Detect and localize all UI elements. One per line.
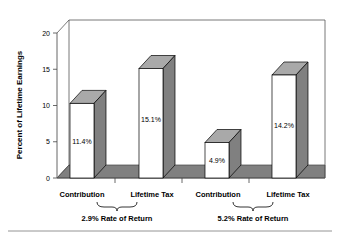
bar-group-3: 4.9% <box>205 130 241 179</box>
bar-group-4: 14.2% <box>272 62 308 178</box>
y-tick-label-0: 0 <box>46 175 50 182</box>
bar-4-value-label: 14.2% <box>274 122 294 129</box>
group-label-2: 5.2% Rate of Return <box>218 214 289 223</box>
category-label-2: Lifetime Tax <box>130 190 174 199</box>
bar-group-1: 11.4% <box>70 90 106 178</box>
category-label-4: Lifetime Tax <box>266 190 310 199</box>
bar-3-value-label: 4.9% <box>209 157 225 164</box>
category-label-1: Contribution <box>60 190 105 199</box>
y-tick-label-15: 15 <box>42 66 50 73</box>
bar-2-front-face <box>139 69 163 179</box>
group-label-1: 2.9% Rate of Return <box>82 214 153 223</box>
category-label-3: Contribution <box>196 190 241 199</box>
bar-1-side-face <box>94 90 106 178</box>
bar-2-value-label: 15.1% <box>141 116 161 123</box>
y-tick-label-20: 20 <box>42 30 50 37</box>
y-axis-title: Percent of Lifetime Earnings <box>15 50 24 159</box>
bar-2-side-face <box>163 56 175 179</box>
bar-1-value-label: 11.4% <box>72 138 91 145</box>
chart-figure: 0 5 10 15 20 Percent of Lifetime Earning… <box>0 0 340 239</box>
bar-4-side-face <box>296 62 308 178</box>
y-tick-label-10: 10 <box>42 102 50 109</box>
bar-group-2: 15.1% <box>139 56 175 179</box>
y-tick-label-5: 5 <box>46 138 50 145</box>
bar-chart-canvas: 0 5 10 15 20 Percent of Lifetime Earning… <box>0 0 340 239</box>
